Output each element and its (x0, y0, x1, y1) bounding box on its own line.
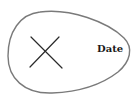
date-label: Date (97, 43, 123, 55)
x-mark-icon (30, 37, 62, 68)
